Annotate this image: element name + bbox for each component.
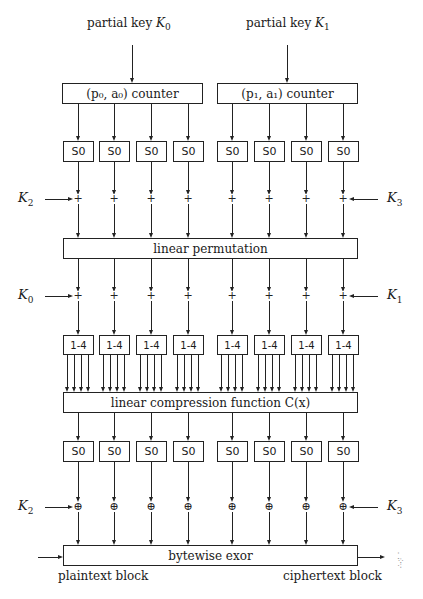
connector-line <box>269 204 270 233</box>
connector-line <box>78 162 79 190</box>
arrow-k1-to-counter <box>287 45 288 78</box>
add-op-icon: + <box>183 291 193 301</box>
sbox-s0-top: S0 <box>173 141 204 162</box>
add-op-icon: + <box>109 194 119 204</box>
connector-line <box>114 512 115 540</box>
expander-1-4: 1-4 <box>328 335 359 355</box>
connector-line <box>114 162 115 190</box>
sbox-s0-top: S0 <box>328 141 359 162</box>
connector-line <box>232 301 233 330</box>
connector-line <box>81 355 82 387</box>
connector-line <box>188 301 189 330</box>
sbox-s0-top: S0 <box>63 141 94 162</box>
expander-label: 1-4 <box>180 340 196 351</box>
sbox-label: S0 <box>145 145 159 158</box>
sbox-label: S0 <box>72 445 86 458</box>
connector-line <box>343 462 344 497</box>
connector-line <box>188 462 189 497</box>
sbox-label: S0 <box>72 145 86 158</box>
sbox-s0-bottom: S0 <box>254 441 285 462</box>
connector-line <box>232 162 233 190</box>
counter-p1-a1: (p₁, a₁) counter <box>217 83 358 104</box>
connector-line <box>343 413 344 436</box>
expander-label: 1-4 <box>298 340 314 351</box>
connector-line <box>232 204 233 233</box>
connector-line <box>269 301 270 330</box>
connector-line <box>232 104 233 136</box>
scribble-mark-icon: ⁚⁘⁖ <box>397 554 405 570</box>
connector-line <box>198 355 199 387</box>
connector-line <box>114 413 115 436</box>
sbox-label: S0 <box>182 145 196 158</box>
xor-op-icon: ⊕ <box>183 502 193 512</box>
sbox-label: S0 <box>108 445 122 458</box>
xor-op-icon: ⊕ <box>264 502 274 512</box>
connector-line <box>306 301 307 330</box>
key-k2-row1: K2 <box>18 190 33 208</box>
connector-line <box>151 259 152 287</box>
sbox-label: S0 <box>108 145 122 158</box>
key-k3-row3: K3 <box>387 498 402 516</box>
expander-label: 1-4 <box>224 340 240 351</box>
connector-line <box>232 462 233 497</box>
connector-line <box>188 259 189 287</box>
add-op-icon: + <box>109 291 119 301</box>
connector-line <box>269 259 270 287</box>
arrowhead-icon <box>68 294 73 298</box>
connector-line <box>151 301 152 330</box>
arrow-k2-row3 <box>45 507 69 508</box>
connector-line <box>279 355 280 387</box>
arrow-k1-row2 <box>354 296 378 297</box>
connector-line <box>114 462 115 497</box>
connector-line <box>343 301 344 330</box>
sbox-s0-bottom: S0 <box>99 441 130 462</box>
connector-line <box>346 355 347 387</box>
connector-line <box>154 355 155 387</box>
connector-line <box>191 355 192 387</box>
add-op-icon: + <box>338 194 348 204</box>
connector-line <box>306 204 307 233</box>
connector-line <box>188 104 189 136</box>
arrowhead-icon <box>380 555 385 559</box>
connector-line <box>343 512 344 540</box>
connector-line <box>343 104 344 136</box>
arrow-k0-to-counter <box>132 45 133 78</box>
connector-line <box>151 512 152 540</box>
xor-op-icon: ⊕ <box>109 502 119 512</box>
add-op-icon: + <box>338 291 348 301</box>
linear-compression-block: linear compression function C(x) <box>63 392 358 413</box>
connector-line <box>188 413 189 436</box>
connector-line <box>188 204 189 233</box>
connector-line <box>151 462 152 497</box>
connector-line <box>343 162 344 190</box>
connector-line <box>269 104 270 136</box>
connector-line <box>306 413 307 436</box>
connector-line <box>117 355 118 387</box>
sbox-label: S0 <box>300 445 314 458</box>
sbox-s0-top: S0 <box>136 141 167 162</box>
counter-p0-a0: (p₀, a₀) counter <box>62 83 203 104</box>
connector-line <box>306 162 307 190</box>
sbox-label: S0 <box>263 445 277 458</box>
plaintext-input-arrow <box>38 557 59 558</box>
connector-line <box>306 462 307 497</box>
xor-op-icon: ⊕ <box>146 502 156 512</box>
connector-line <box>124 355 125 387</box>
connector-line <box>295 355 296 387</box>
connector-line <box>269 162 270 190</box>
connector-line <box>188 162 189 190</box>
expander-1-4: 1-4 <box>291 335 322 355</box>
ciphertext-output-arrow <box>358 557 380 558</box>
expander-1-4: 1-4 <box>99 335 130 355</box>
connector-line <box>258 355 259 387</box>
connector-line <box>232 259 233 287</box>
connector-line <box>265 355 266 387</box>
sbox-label: S0 <box>337 145 351 158</box>
connector-line <box>269 413 270 436</box>
connector-line <box>232 512 233 540</box>
connector-line <box>140 355 141 387</box>
linear-permutation-block: linear permutation <box>63 238 358 259</box>
connector-line <box>309 355 310 387</box>
linear-compression-label: linear compression function C(x) <box>111 396 310 410</box>
connector-line <box>78 413 79 436</box>
